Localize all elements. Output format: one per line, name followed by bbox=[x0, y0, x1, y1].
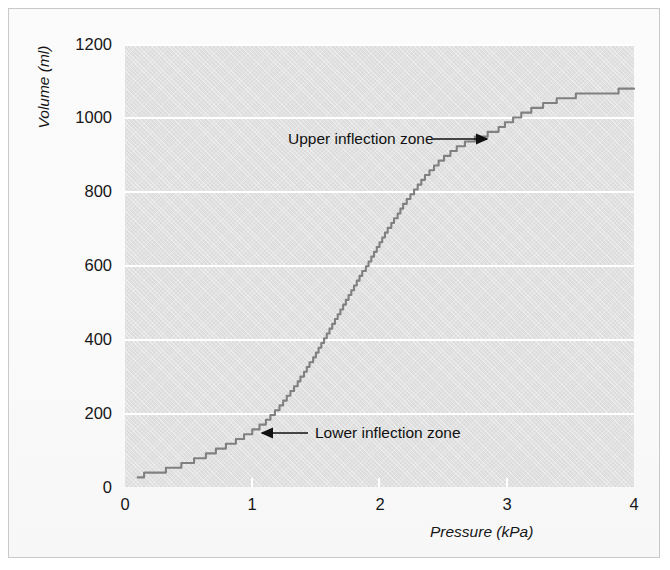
y-tick-label-800: 800 bbox=[0, 182, 112, 201]
y-axis-title: Volume (ml) bbox=[35, 27, 53, 147]
gridline-200 bbox=[125, 413, 634, 415]
x-tickmark-1 bbox=[251, 478, 253, 487]
x-tick-label-0: 0 bbox=[105, 495, 145, 514]
x-tick-label-2: 2 bbox=[360, 495, 400, 514]
gridline-1000 bbox=[125, 117, 634, 119]
y-tick-label-0: 0 bbox=[0, 478, 112, 497]
gridline-800 bbox=[125, 191, 634, 193]
plot-area bbox=[125, 44, 634, 487]
y-tick-label-400: 400 bbox=[0, 330, 112, 349]
gridline-400 bbox=[125, 339, 634, 341]
pressure-volume-chart: 1200 1000 800 600 400 200 0 0 1 2 3 4 Vo… bbox=[0, 0, 670, 570]
x-axis-title: Pressure (kPa) bbox=[430, 523, 533, 541]
upper-inflection-zone-label: Upper inflection zone bbox=[288, 130, 434, 148]
y-tick-label-600: 600 bbox=[0, 256, 112, 275]
y-tick-label-1200: 1200 bbox=[0, 35, 112, 54]
x-tickmark-3 bbox=[506, 478, 508, 487]
y-tick-label-1000: 1000 bbox=[0, 108, 112, 127]
gridline-600 bbox=[125, 265, 634, 267]
x-tick-label-4: 4 bbox=[614, 495, 654, 514]
lower-inflection-zone-label: Lower inflection zone bbox=[315, 424, 461, 442]
x-tickmark-2 bbox=[378, 478, 380, 487]
x-tick-label-1: 1 bbox=[232, 495, 272, 514]
y-tick-label-200: 200 bbox=[0, 404, 112, 423]
gridline-1200 bbox=[125, 44, 634, 46]
x-tick-label-3: 3 bbox=[487, 495, 527, 514]
